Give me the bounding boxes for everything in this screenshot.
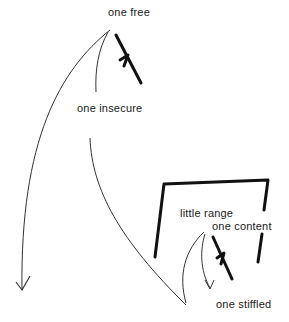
curve-content-to-stiffled [183, 232, 204, 303]
label-little-range: little range [180, 207, 233, 219]
label-one-insecure: one insecure [77, 102, 142, 114]
label-one-free: one free [108, 6, 150, 18]
diagram-canvas: one free one insecure little range one c… [0, 0, 289, 322]
diagram-lines [0, 0, 289, 322]
check-mark-content [217, 253, 224, 264]
bracket-right-lower [258, 234, 262, 262]
label-one-stiffled: one stiffled [216, 298, 271, 310]
curve-content-arrow [202, 234, 210, 288]
label-one-content: one content [212, 220, 272, 232]
curve-insecure-to-stiffled [90, 138, 186, 305]
arrowhead-left-icon [16, 276, 30, 290]
check-mark-free [120, 55, 128, 66]
